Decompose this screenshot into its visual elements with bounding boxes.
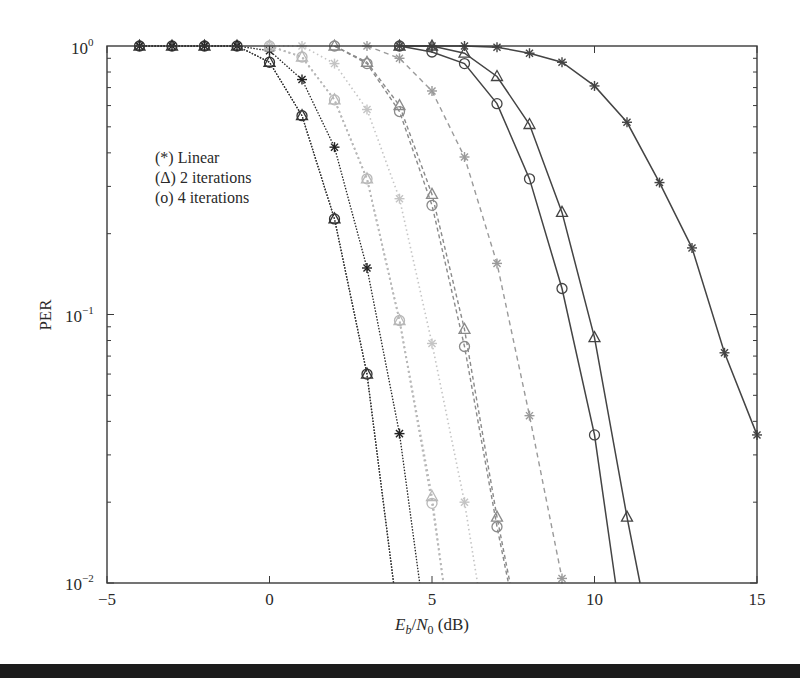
star-marker: [330, 59, 340, 69]
ytick-label-0: 100: [71, 36, 94, 58]
star-marker: [395, 53, 405, 63]
xtick-label-3: 10: [586, 590, 603, 609]
legend-entry-linear: (*) Linear: [155, 149, 220, 167]
star-marker: [460, 152, 470, 162]
series-layer: [134, 40, 762, 583]
series-11: [395, 41, 763, 440]
series-6: [330, 41, 509, 583]
xtick-label-1: 0: [265, 590, 274, 609]
xtick-label-4: 15: [749, 590, 766, 609]
star-marker: [590, 81, 600, 91]
star-marker: [460, 497, 470, 507]
star-marker: [395, 429, 405, 439]
x-axis-title: Eb/N0 (dB): [394, 615, 469, 637]
xtick-label-2: 5: [428, 590, 437, 609]
series-10: [394, 40, 640, 583]
star-marker: [622, 117, 632, 127]
legend-entry-4-iterations: (o) 4 iterations: [155, 189, 249, 207]
star-marker: [557, 573, 567, 583]
star-marker: [330, 142, 340, 152]
star-marker: [427, 86, 437, 96]
series-7: [329, 40, 510, 583]
star-marker: [687, 243, 697, 253]
star-marker: [395, 194, 405, 204]
star-marker: [525, 411, 535, 421]
star-marker: [297, 75, 307, 85]
legend-entry-2-iterations: (Δ) 2 iterations: [155, 169, 252, 187]
star-marker: [720, 348, 730, 358]
per-vs-ebn0-chart: 100 10−1 10−2 −5 0 5 10 15 Eb/N0 (dB) PE…: [0, 0, 800, 678]
triangle-marker: [492, 70, 503, 80]
star-marker: [362, 105, 372, 115]
star-marker: [557, 57, 567, 67]
ytick-label-1: 10−1: [65, 304, 94, 326]
xtick-label-0: −5: [98, 590, 116, 609]
ytick-label-2: 10−2: [65, 572, 94, 594]
series-0: [135, 41, 394, 583]
legend: (*) Linear (Δ) 2 iterations (o) 4 iterat…: [155, 149, 252, 207]
plot-frame: [107, 46, 757, 583]
star-marker: [427, 338, 437, 348]
star-marker: [492, 42, 502, 52]
star-marker: [362, 263, 372, 273]
bottom-border-bar: [0, 664, 800, 678]
star-marker: [525, 48, 535, 58]
axis-ticks: [107, 46, 757, 583]
star-marker: [655, 178, 665, 188]
series-5: [265, 41, 478, 583]
series-1: [134, 40, 394, 583]
y-axis-title: PER: [36, 299, 55, 331]
star-marker: [492, 258, 502, 268]
series-2: [135, 41, 420, 583]
